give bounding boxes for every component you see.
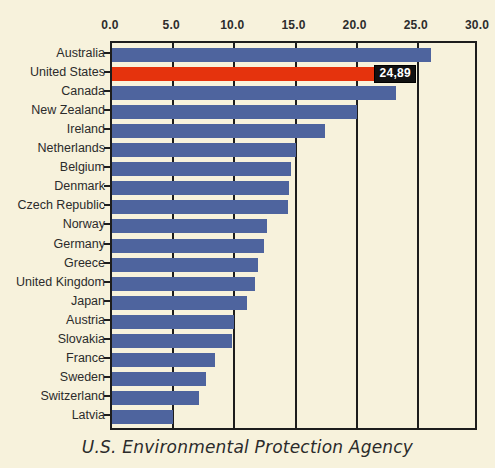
bar-series bbox=[112, 43, 475, 428]
bar-row bbox=[112, 178, 479, 198]
bar-row bbox=[112, 255, 479, 275]
bar bbox=[112, 48, 431, 62]
y-category-label: Canada bbox=[0, 81, 105, 101]
y-category-label: Switzerland bbox=[0, 386, 105, 406]
plot-area: 24,89 bbox=[110, 41, 477, 430]
bar-row bbox=[112, 159, 479, 179]
bar-row bbox=[112, 274, 479, 294]
bar bbox=[112, 181, 289, 195]
bar bbox=[112, 124, 325, 138]
y-category-label: New Zealand bbox=[0, 100, 105, 120]
y-category-label: United Kingdom bbox=[0, 272, 105, 292]
bar bbox=[112, 353, 215, 367]
value-callout: 24,89 bbox=[374, 65, 416, 83]
x-tick-label: 0.0 bbox=[101, 18, 118, 32]
bar-row bbox=[112, 216, 479, 236]
y-category-label: Latvia bbox=[0, 405, 105, 425]
y-category-label: Greece bbox=[0, 253, 105, 273]
bar bbox=[112, 162, 291, 176]
bar-row bbox=[112, 350, 479, 370]
bar bbox=[112, 334, 232, 348]
x-tick-label: 30.0 bbox=[465, 18, 489, 32]
y-category-label: Slovakia bbox=[0, 329, 105, 349]
y-category-label: Australia bbox=[0, 43, 105, 63]
bar bbox=[112, 143, 296, 157]
y-category-label: Norway bbox=[0, 214, 105, 234]
bar-row bbox=[112, 45, 479, 65]
bar bbox=[112, 410, 173, 424]
bar bbox=[112, 105, 357, 119]
y-category-label: Sweden bbox=[0, 367, 105, 387]
y-category-label: Germany bbox=[0, 234, 105, 254]
bar bbox=[112, 391, 199, 405]
y-category-label: Belgium bbox=[0, 157, 105, 177]
x-tick-label: 20.0 bbox=[343, 18, 367, 32]
chart-caption: U.S. Environmental Protection Agency bbox=[0, 437, 495, 457]
bar-row bbox=[112, 407, 479, 427]
x-tick-label: 10.0 bbox=[220, 18, 244, 32]
y-category-label: Ireland bbox=[0, 119, 105, 139]
bar-row bbox=[112, 197, 479, 217]
bar-row bbox=[112, 293, 479, 313]
x-axis-tick-labels: 0.05.010.015.020.025.030.0 bbox=[0, 18, 495, 34]
bar-row bbox=[112, 83, 479, 103]
bar-row bbox=[112, 312, 479, 332]
bar bbox=[112, 200, 288, 214]
x-tick-label: 25.0 bbox=[404, 18, 428, 32]
bar bbox=[112, 258, 258, 272]
bar-row bbox=[112, 140, 479, 160]
bar-row bbox=[112, 388, 479, 408]
bar-row bbox=[112, 64, 479, 84]
bar bbox=[112, 219, 267, 233]
bar bbox=[112, 277, 255, 291]
y-category-label: France bbox=[0, 348, 105, 368]
bar-row bbox=[112, 121, 479, 141]
y-category-label: Netherlands bbox=[0, 138, 105, 158]
y-category-label: Denmark bbox=[0, 176, 105, 196]
bar bbox=[112, 315, 234, 329]
bar-row bbox=[112, 331, 479, 351]
y-category-label: Japan bbox=[0, 291, 105, 311]
bar bbox=[112, 86, 396, 100]
bar bbox=[112, 296, 247, 310]
bar bbox=[112, 239, 264, 253]
bar-row bbox=[112, 236, 479, 256]
bar-row bbox=[112, 102, 479, 122]
chart-page: 0.05.010.015.020.025.030.0 AustraliaUnit… bbox=[0, 0, 495, 468]
x-tick-label: 15.0 bbox=[281, 18, 305, 32]
x-tick-label: 5.0 bbox=[163, 18, 180, 32]
y-category-label: Czech Republic bbox=[0, 195, 105, 215]
bar bbox=[112, 67, 416, 81]
y-category-label: Austria bbox=[0, 310, 105, 330]
y-axis-category-labels: AustraliaUnited StatesCanadaNew ZealandI… bbox=[0, 41, 105, 430]
bar bbox=[112, 372, 206, 386]
bar-row bbox=[112, 369, 479, 389]
y-category-label: United States bbox=[0, 62, 105, 82]
